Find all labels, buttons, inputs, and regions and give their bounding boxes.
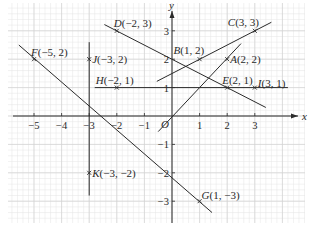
line-DE: [104, 25, 265, 108]
point-label-k: K(−3, −2): [91, 167, 136, 180]
point-label-f: F(−5, 2): [30, 46, 68, 59]
point-label-i: I(3, 1): [257, 77, 286, 90]
y-axis-arrow-icon: [170, 11, 175, 18]
x-tick-label: 2: [225, 120, 230, 131]
point-label-g: G(1, −3): [202, 189, 240, 202]
x-axis-arrow-icon: [291, 114, 298, 119]
point-label-d: D(−2, 3): [113, 17, 152, 30]
y-tick-label: −3: [158, 196, 169, 207]
x-tick-label: −1: [139, 120, 150, 131]
point-label-a: A(2, 2): [229, 53, 261, 66]
y-tick-label: 3: [164, 26, 169, 37]
y-axis-label: y: [168, 0, 174, 11]
point-label-h: H(−2, 1): [95, 74, 134, 87]
y-tick-label: −1: [158, 139, 169, 150]
point-label-b: B(1, 2): [174, 44, 205, 57]
x-tick-label: −4: [56, 120, 68, 131]
x-axis-label: x: [301, 110, 307, 122]
axes: xyO−5−4−3−2−1123−3−2−1123: [13, 0, 307, 223]
x-tick-label: −5: [28, 120, 39, 131]
point-label-c: C(3, 3): [228, 16, 260, 29]
graph-paper-grid: [8, 3, 305, 223]
point-label-j: J(−3, 2): [92, 53, 127, 66]
coordinate-plane-figure: xyO−5−4−3−2−1123−3−2−1123 A(2, 2)B(1, 2)…: [0, 0, 313, 233]
x-tick-label: 1: [197, 120, 202, 131]
point-label-e: E(2, 1): [221, 74, 253, 87]
x-tick-label: 3: [252, 120, 257, 131]
